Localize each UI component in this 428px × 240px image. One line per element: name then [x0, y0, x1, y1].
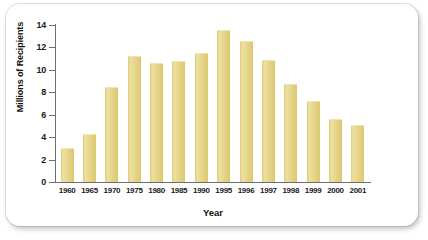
bar [83, 134, 96, 182]
bar [150, 63, 163, 182]
y-axis-tick-label: 4 [6, 132, 46, 142]
bar [284, 84, 297, 182]
bar [262, 60, 275, 182]
bar [128, 56, 141, 182]
bar [61, 148, 74, 182]
plot-area [55, 25, 368, 182]
bar [105, 87, 118, 182]
figure-root: 02468101214 Millions of Recipients 19601… [0, 0, 428, 240]
y-axis-tick-label: 12 [6, 42, 46, 52]
x-axis-title: Year [55, 207, 371, 218]
x-axis-line [55, 182, 371, 183]
bar [240, 41, 253, 182]
y-axis-tick [49, 182, 56, 183]
y-axis-tick-label: 6 [6, 110, 46, 120]
y-axis-title: Millions of Recipients [15, 7, 25, 127]
bar [307, 101, 320, 182]
bar [329, 119, 342, 182]
bar [195, 53, 208, 182]
bar [351, 125, 364, 182]
y-axis-tick-label: 2 [6, 155, 46, 165]
y-axis-tick-label: 0 [6, 177, 46, 187]
y-axis-tick-label: 10 [6, 65, 46, 75]
bar [217, 30, 230, 183]
chart-card: 02468101214 Millions of Recipients 19601… [6, 4, 418, 226]
bar [172, 61, 185, 182]
y-axis-tick-label: 8 [6, 87, 46, 97]
y-axis-tick-label: 14 [6, 20, 46, 30]
x-axis-tick-label: 2001 [344, 186, 372, 195]
